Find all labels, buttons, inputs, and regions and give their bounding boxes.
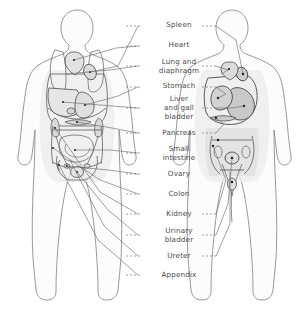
label-pancreas: Pancreas (142, 128, 216, 137)
gallbladder-organ-left (67, 108, 75, 114)
appendix-marker-right (217, 139, 219, 141)
figure-left (18, 10, 136, 300)
label-lung-diaphragm: Lung and diaphragm (142, 57, 216, 75)
label-ovary: Ovary (142, 169, 216, 178)
label-heart: Heart (142, 40, 216, 49)
label-spleen: Spleen (142, 20, 216, 29)
anatomy-diagram: Spleen Heart Lung and diaphragm Stomach … (0, 0, 307, 316)
label-liver-gall-bladder: Liver and gall bladder (142, 94, 216, 122)
label-ureter: Ureter (142, 251, 216, 260)
label-urinary-bladder: Urinary bladder (142, 226, 216, 244)
urinary-bladder-organ-right (228, 178, 237, 190)
bladder-marker-right (231, 181, 233, 183)
label-colon: Colon (142, 189, 216, 198)
label-appendix: Appendix (142, 270, 216, 279)
label-small-intestine: Small intestine (142, 144, 216, 162)
urethra-right (231, 190, 232, 222)
label-stomach: Stomach (142, 81, 216, 90)
label-kidney: Kidney (142, 209, 216, 218)
